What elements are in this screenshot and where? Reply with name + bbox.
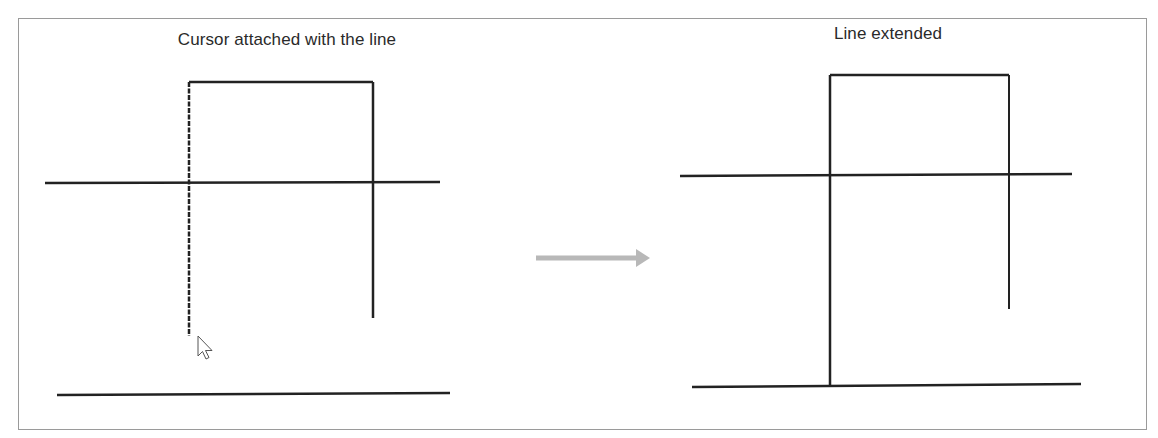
before-panel — [45, 82, 450, 395]
arrow-head — [636, 249, 650, 267]
cursor-pointer-shape — [198, 336, 212, 359]
middle-horizontal-line — [45, 182, 440, 183]
middle-horizontal-line — [680, 174, 1072, 176]
bottom-boundary-line — [57, 393, 450, 395]
mouse-cursor-icon — [198, 336, 212, 359]
drawing-surface — [0, 0, 1158, 438]
after-panel — [680, 75, 1081, 387]
diagram-canvas: Cursor attached with the line Line exten… — [0, 0, 1158, 438]
right-arrow-icon — [536, 249, 650, 267]
bottom-boundary-line — [692, 384, 1081, 387]
